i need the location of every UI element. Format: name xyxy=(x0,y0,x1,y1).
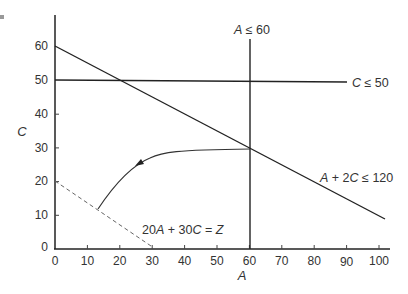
y-tick-label: 50 xyxy=(35,73,49,87)
x-axis-title: A xyxy=(237,268,247,283)
x-tick-label: 90 xyxy=(340,255,354,269)
lp-graph: 0 10 20 30 40 50 60 70 80 90 100 A 0 10 … xyxy=(0,0,408,294)
x-tick-label: 80 xyxy=(308,254,322,268)
x-tick-label: 50 xyxy=(210,254,224,268)
x-tick-label: 40 xyxy=(178,254,192,268)
y-tick-label: 40 xyxy=(35,107,49,121)
arrowhead-icon xyxy=(135,159,144,166)
constraint-line-a-plus-2c xyxy=(55,46,385,219)
y-tick-label: 60 xyxy=(35,39,49,53)
x-tick-label: 70 xyxy=(275,254,289,268)
y-tick-labels: 0 10 20 30 40 50 60 xyxy=(35,39,49,254)
label-objective: 20A + 30C = Z xyxy=(142,223,224,237)
label-c-le-50: C ≤ 50 xyxy=(352,76,389,90)
label-a-plus-2c: A + 2C ≤ 120 xyxy=(319,171,393,185)
x-tick-label: 0 xyxy=(52,254,59,268)
corner-marker xyxy=(0,15,4,19)
constraint-line-c-le-50 xyxy=(55,80,347,82)
x-tick-label: 10 xyxy=(81,254,95,268)
x-tick-label: 100 xyxy=(369,254,389,268)
optimization-direction-curve xyxy=(98,149,250,209)
x-tick-label: 60 xyxy=(243,254,257,268)
y-tick-label: 10 xyxy=(35,208,49,222)
y-tick-label: 20 xyxy=(35,174,49,188)
x-tick-labels: 0 10 20 30 40 50 60 70 80 90 100 xyxy=(52,254,390,269)
y-tick-label: 0 xyxy=(41,240,48,254)
y-axis-title: C xyxy=(17,124,27,139)
x-tick-label: 20 xyxy=(113,254,127,268)
y-tick-label: 30 xyxy=(35,141,49,155)
label-a-le-60: A ≤ 60 xyxy=(233,23,270,37)
x-tick-label: 30 xyxy=(146,254,160,268)
objective-iso-line xyxy=(55,181,151,246)
